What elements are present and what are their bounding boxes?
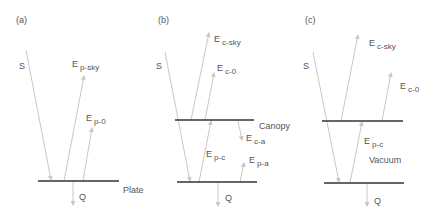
- ray-s-c: [313, 52, 339, 182]
- ray-ep-sky: [64, 76, 84, 181]
- ray-s-a: [26, 50, 51, 180]
- label-q-c: Q: [374, 197, 381, 206]
- label-q-b: Q: [225, 194, 232, 203]
- ray-ec-0-c: [382, 73, 391, 121]
- label-plate: Plate: [123, 186, 144, 195]
- label-ep-c-b: Ep-c: [206, 150, 225, 159]
- label-s-b: S: [156, 62, 162, 71]
- label-ec-0-b: Ec-0: [217, 64, 236, 73]
- ray-ep-0: [83, 128, 92, 181]
- ray-ep-a: [240, 163, 244, 182]
- label-ep-0: Ep-0: [86, 114, 106, 123]
- label-canopy: Canopy: [259, 122, 290, 131]
- panel-tag-a: (a): [16, 16, 27, 25]
- ray-ec-a: [238, 121, 242, 140]
- ray-s-b: [165, 52, 190, 181]
- ray-ec-0-b: [205, 73, 214, 120]
- label-ec-sky-c: Ec-sky: [369, 39, 396, 48]
- ray-ec-sky-b: [191, 33, 209, 120]
- diagram-canvas: [0, 0, 433, 216]
- label-s-a: S: [19, 62, 25, 71]
- label-ec-a: Ec-a: [246, 134, 265, 143]
- label-q-a: Q: [79, 193, 86, 202]
- label-ep-a: Ep-a: [249, 156, 269, 165]
- ray-ep-c-c: [350, 122, 362, 183]
- label-vacuum: Vacuum: [369, 156, 401, 165]
- label-s-c: S: [303, 62, 309, 71]
- panel-tag-c: (c): [305, 16, 316, 25]
- label-ec-0-c: Ec-0: [400, 82, 419, 91]
- label-ep-sky: Ep-sky: [72, 60, 99, 69]
- label-ep-c-c: Ep-c: [364, 137, 383, 146]
- ray-ec-sky-c: [341, 35, 358, 121]
- label-ec-sky-b: Ec-sky: [214, 35, 241, 44]
- panel-tag-b: (b): [158, 16, 169, 25]
